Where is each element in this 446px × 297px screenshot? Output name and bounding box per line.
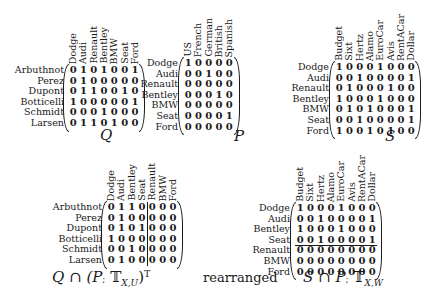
column-header: Dollar xyxy=(367,172,377,202)
row-label: Ford xyxy=(270,126,329,137)
matrix-row: 10000 xyxy=(183,58,234,69)
matrix-cell: 0 xyxy=(396,115,406,126)
matrix-cell: 0 xyxy=(204,111,214,122)
matrix-cell: 0 xyxy=(106,202,116,213)
row-label: Larsen xyxy=(30,255,102,266)
matrix-cell: 0 xyxy=(396,62,406,73)
matrix-cell: 0 xyxy=(214,111,224,122)
matrix-cell: 0 xyxy=(109,65,119,76)
matrix-cell: 0 xyxy=(183,122,193,133)
matrix-row: 00000000 xyxy=(295,256,377,267)
matrix-cell: 1 xyxy=(365,126,375,137)
matrix-cell: 1 xyxy=(385,126,395,137)
matrix-cell: 1 xyxy=(334,62,344,73)
row-label: Dodge xyxy=(230,203,290,214)
row-labels-q: ArbuthnotPerezDupontBotticelliSchmidtLar… xyxy=(0,65,64,129)
matrix-cell: 1 xyxy=(78,118,88,129)
matrix-cell: 0 xyxy=(326,256,336,267)
matrix-cell: 0 xyxy=(106,255,116,266)
matrix-body-qp: 0110000010000001010001000000001000001000… xyxy=(106,202,178,266)
column-headers-sp: BudgetSixtHertzAlamoEuroCarAvisRentACarD… xyxy=(295,148,377,202)
row-labels-sp: DodgeAudiBentleySeatRenaultBMWFord xyxy=(230,203,290,277)
row-label: Seat xyxy=(120,111,178,122)
matrix-cell: 0 xyxy=(295,256,305,267)
column-header: BMW xyxy=(109,38,119,64)
matrix-cell: 0 xyxy=(346,267,356,278)
matrix-cell: 1 xyxy=(116,202,126,213)
matrix-cell: 0 xyxy=(385,115,395,126)
matrix-cell: 0 xyxy=(355,126,365,137)
matrix-cell: 0 xyxy=(214,122,224,133)
matrix-row: 00000000 xyxy=(295,267,377,278)
matrix-cell: 0 xyxy=(385,62,395,73)
matrix-cell: 0 xyxy=(344,62,354,73)
matrix-cell: 0 xyxy=(224,58,234,69)
row-label: Ford xyxy=(120,122,178,133)
left-parenthesis xyxy=(101,201,107,269)
matrix-body-s: 1000100000100001010001001000100001010001… xyxy=(334,62,416,136)
matrix-body-p: 10000001000000000010000000000100000 xyxy=(183,58,234,132)
row-block-divider xyxy=(295,245,377,246)
matrix-body-sp: 1000100000100001100010000010000100000000… xyxy=(295,203,377,277)
matrix-cell: 1 xyxy=(116,255,126,266)
matrix-cell: 0 xyxy=(336,267,346,278)
matrix-cell: 1 xyxy=(334,126,344,137)
left-parenthesis xyxy=(329,61,335,139)
row-labels-s: DodgeAudiRenaultBentleyBMWSeatFord xyxy=(270,62,329,136)
matrix-cell: 0 xyxy=(193,58,203,69)
matrix-cell: 0 xyxy=(344,126,354,137)
left-parenthesis xyxy=(178,57,184,135)
matrix-cell: 0 xyxy=(204,122,214,133)
caption-subscript: X,U xyxy=(121,278,138,288)
row-label: Arbuthnot xyxy=(0,65,64,76)
matrix-cell: 1 xyxy=(336,203,346,214)
row-label: Seat xyxy=(270,115,329,126)
row-label: Dodge xyxy=(120,58,178,69)
caption-q-cap-pt-main: Q ∩ (P xyxy=(52,268,102,286)
matrix-cell: 1 xyxy=(89,118,99,129)
matrix-cell: 0 xyxy=(396,126,406,137)
right-parenthesis xyxy=(177,201,183,269)
matrix-cell: 1 xyxy=(109,118,119,129)
column-header: Audi xyxy=(78,42,88,64)
row-label: Larsen xyxy=(0,118,64,129)
matrix-row: 10001000 xyxy=(295,203,377,214)
matrix-row: 00000 xyxy=(183,122,234,133)
matrix-cell: 0 xyxy=(326,267,336,278)
column-headers-p: USFrenchGermanBritishSpanish xyxy=(183,3,235,57)
matrix-row: 10010100 xyxy=(334,126,416,137)
matrix-cell: 0 xyxy=(157,202,167,213)
column-header: BMW xyxy=(158,175,168,201)
matrix-row: 0110000 xyxy=(106,202,178,213)
matrix-cell: 0 xyxy=(214,58,224,69)
matrix-cell: 0 xyxy=(193,111,203,122)
matrix-cell: 1 xyxy=(78,65,88,76)
column-header: Sixt xyxy=(344,42,354,61)
matrix-cell: 0 xyxy=(157,255,167,266)
caption-transpose: )ᵀ xyxy=(138,268,150,286)
left-parenthesis xyxy=(290,202,296,280)
column-block-divider xyxy=(147,202,148,266)
matrix-cell: 0 xyxy=(99,118,109,129)
matrix-cell: 0 xyxy=(346,203,356,214)
matrix-cell: 0 xyxy=(344,115,354,126)
left-parenthesis xyxy=(63,64,69,132)
matrix-cell: 0 xyxy=(204,58,214,69)
matrix-cell: 0 xyxy=(355,62,365,73)
column-header: Sixt xyxy=(305,183,315,202)
matrix-cell: 0 xyxy=(357,256,367,267)
matrix-cell: 0 xyxy=(375,126,385,137)
matrix-cell: 0 xyxy=(183,111,193,122)
matrix-row: 0100000 xyxy=(106,255,178,266)
column-header: Avis xyxy=(347,182,357,202)
matrix-cell: 0 xyxy=(295,267,305,278)
matrix-cell: 0 xyxy=(316,203,326,214)
column-header: Renault xyxy=(147,163,157,201)
row-labels-qp: ArbuthnotPerezDupontBotticelliSchmidtLar… xyxy=(30,202,102,266)
matrix-cell: 0 xyxy=(357,267,367,278)
column-header: Avis xyxy=(386,41,396,61)
matrix-cell: 1 xyxy=(295,203,305,214)
row-label: Dodge xyxy=(270,62,329,73)
matrix-cell: 1 xyxy=(355,115,365,126)
matrix-cell: 0 xyxy=(89,65,99,76)
